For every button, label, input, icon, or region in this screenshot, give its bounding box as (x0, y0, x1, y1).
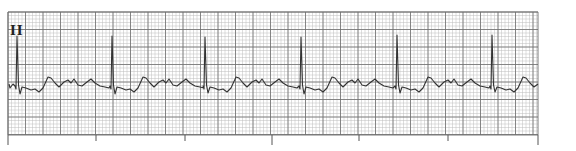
ecg-grid-minor (8, 12, 538, 135)
time-markers (8, 135, 538, 145)
ecg-strip (0, 0, 576, 151)
lead-label: II (10, 22, 24, 39)
ecg-grid-major (8, 12, 538, 135)
